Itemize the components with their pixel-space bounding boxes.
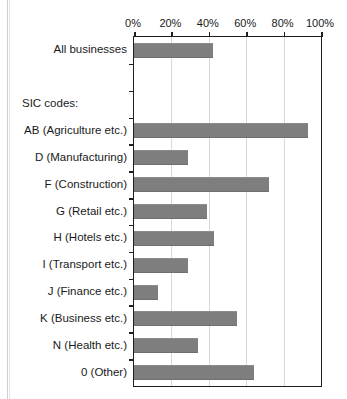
category-label: 0 (Other) <box>81 365 127 379</box>
y-axis-category-labels: All businessesAB (Agriculture etc.)D (Ma… <box>0 0 347 399</box>
category-label: All businesses <box>53 42 127 56</box>
category-label: H (Hotels etc.) <box>54 230 128 244</box>
category-label: G (Retail etc.) <box>56 204 127 218</box>
bar-chart: 0%20%40%60%80%100% All businessesAB (Agr… <box>0 0 347 399</box>
group-heading-sic-codes: SIC codes: <box>22 96 78 110</box>
category-label: D (Manufacturing) <box>35 150 127 164</box>
category-label: AB (Agriculture etc.) <box>24 123 127 137</box>
category-label: J (Finance etc.) <box>48 284 127 298</box>
category-label: K (Business etc.) <box>40 311 127 325</box>
category-label: F (Construction) <box>45 177 127 191</box>
category-label: N (Health etc.) <box>53 338 127 352</box>
category-label: I (Transport etc.) <box>42 257 127 271</box>
